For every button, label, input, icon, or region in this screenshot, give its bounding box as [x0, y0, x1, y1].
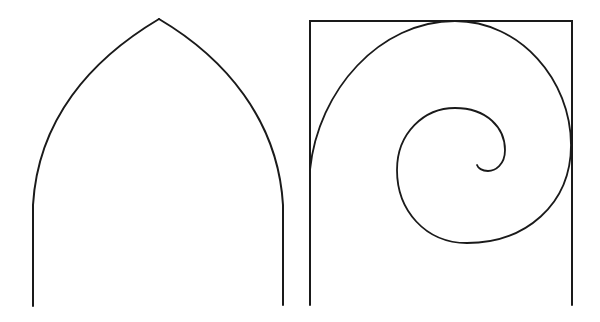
figure-canvas: Line drawing: pointed Gothic arch beside… [0, 0, 600, 322]
arch-right-curve [159, 19, 283, 305]
spiral-curve [310, 21, 571, 243]
gothic-arch: Pointed (Gothic) arch [33, 19, 283, 306]
drawing-svg: Pointed (Gothic) arch Spiral inscribed i… [0, 0, 600, 322]
spiral-frame-figure: Spiral inscribed in square frame [310, 21, 572, 305]
square-frame [310, 21, 572, 305]
arch-left-curve [33, 19, 159, 306]
